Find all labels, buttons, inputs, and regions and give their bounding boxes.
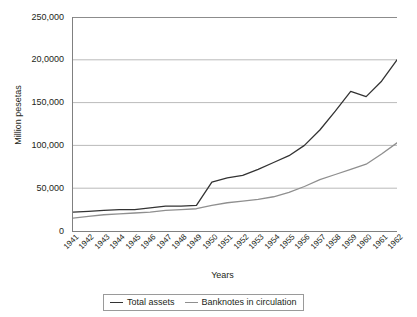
legend-line-swatch [110,302,123,303]
plot-area [72,17,397,232]
legend-item-label: Banknotes in circulation [202,297,297,307]
legend-item-label: Total assets [127,297,175,307]
line-chart-figure: Million pesetas 250,00020,0000150,000100… [0,0,417,317]
y-axis-tick-label: 250,000 [6,13,64,22]
plot-series-svg [73,17,397,231]
chart-legend: Total assetsBanknotes in circulation [103,294,304,311]
y-axis-tick-label: 0 [6,227,64,236]
series-line [73,143,397,218]
x-axis-title: Years [0,270,417,280]
y-axis-tick-label: 50,000 [6,184,64,193]
y-axis-tick-label: 100,000 [6,141,64,150]
legend-line-swatch [185,302,198,303]
legend-item[interactable]: Total assets [110,297,175,307]
legend-item[interactable]: Banknotes in circulation [185,297,297,307]
y-axis-tick-label: 20,0000 [6,55,64,64]
x-axis-title-text: Years [211,270,234,280]
series-line [73,60,397,212]
y-axis-tick-label: 150,000 [6,98,64,107]
